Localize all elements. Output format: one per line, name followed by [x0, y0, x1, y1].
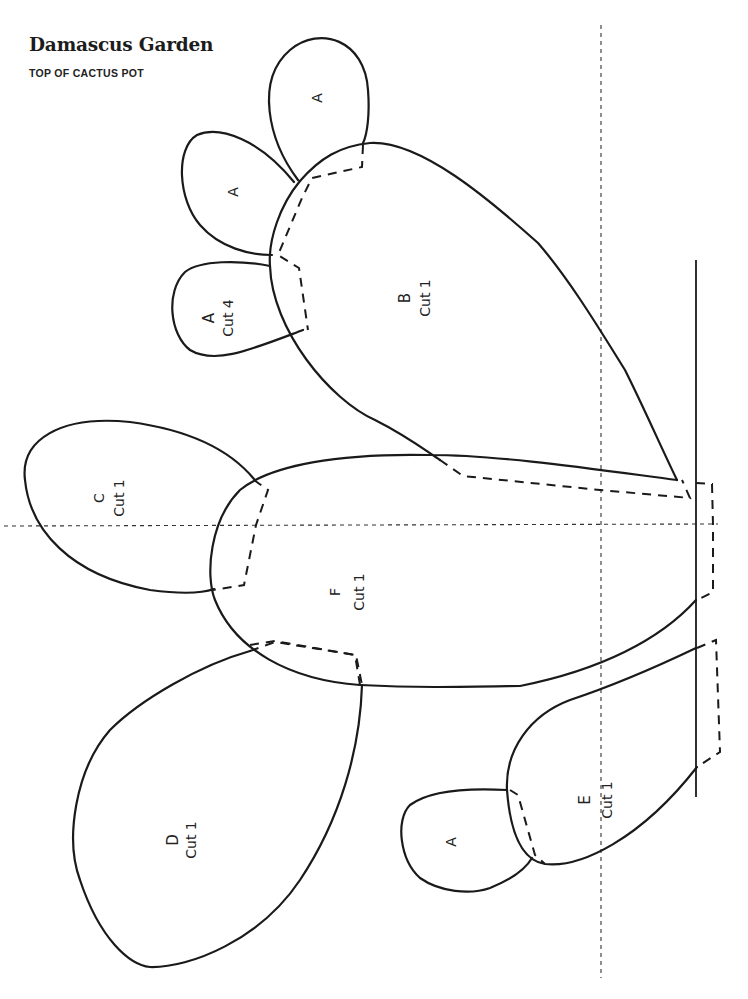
piece-instruction: Cut 1 — [183, 821, 199, 859]
cactus-pattern-diagram: A A A Cut 4 B Cut 1 C Cut 1 — [0, 0, 748, 999]
piece-label: D — [164, 834, 182, 846]
piece-instruction: Cut 1 — [599, 781, 615, 819]
piece-a-top-right: A — [269, 38, 369, 180]
piece-label: B — [396, 293, 414, 303]
piece-instruction: Cut 1 — [351, 573, 367, 611]
piece-instruction: Cut 4 — [220, 299, 236, 337]
piece-label: C — [91, 493, 107, 503]
piece-a-cut-4: A Cut 4 — [172, 262, 303, 356]
piece-label: A — [443, 837, 459, 847]
piece-c: C Cut 1 — [25, 421, 254, 593]
horizontal-guide-line — [4, 524, 718, 526]
piece-e: E Cut 1 — [507, 640, 720, 864]
piece-label: A — [309, 93, 325, 103]
piece-label: A — [200, 312, 218, 323]
piece-label: E — [576, 795, 594, 804]
piece-label: F — [327, 588, 343, 596]
piece-a-middle: A — [182, 132, 294, 255]
piece-a-bottom: A — [401, 789, 532, 891]
piece-instruction: Cut 1 — [111, 479, 127, 517]
piece-d: D Cut 1 — [73, 642, 362, 967]
piece-instruction: Cut 1 — [417, 279, 433, 317]
piece-b: B Cut 1 — [270, 143, 677, 480]
piece-f: F Cut 1 — [210, 455, 713, 687]
pattern-page: Damascus Garden TOP OF CACTUS POT A A A … — [0, 0, 748, 999]
piece-label: A — [225, 187, 241, 197]
